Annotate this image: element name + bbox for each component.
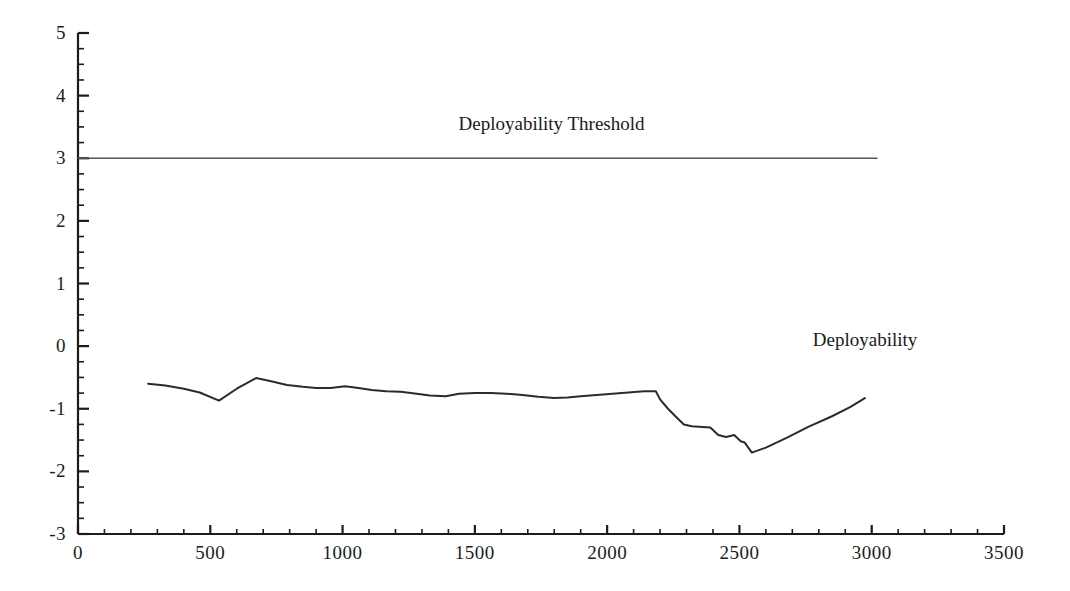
y-axis-tick-label: 1 <box>56 273 66 295</box>
chart-plot-area <box>0 0 1070 591</box>
y-axis-tick-label: 5 <box>56 22 66 44</box>
series-line-1 <box>148 378 865 453</box>
y-axis-tick-label: 0 <box>56 335 66 357</box>
x-axis-tick-label: 1000 <box>323 542 363 564</box>
x-axis-major-ticks <box>78 525 1004 534</box>
y-axis-tick-label: 2 <box>56 210 66 232</box>
data-series-group <box>78 158 877 452</box>
y-axis-major-ticks <box>78 33 89 534</box>
x-axis-tick-label: 2000 <box>587 542 627 564</box>
y-axis-tick-label: 3 <box>56 147 66 169</box>
x-axis-tick-label: 2500 <box>719 542 759 564</box>
x-axis-tick-label: 0 <box>73 542 83 564</box>
axis-lines <box>78 33 1004 534</box>
chart-container: -3-2-1012345 050010001500200025003000350… <box>0 0 1070 591</box>
x-axis-tick-label: 3000 <box>852 542 892 564</box>
y-axis-tick-label: -1 <box>49 398 66 420</box>
series-annotation-label: Deployability <box>813 329 917 351</box>
y-axis-tick-label: 4 <box>56 85 66 107</box>
x-axis-tick-label: 3500 <box>984 542 1024 564</box>
series-annotation-label: Deployability Threshold <box>459 113 645 135</box>
x-axis-tick-label: 1500 <box>455 542 495 564</box>
x-axis-tick-label: 500 <box>195 542 225 564</box>
y-axis-tick-label: -3 <box>49 523 66 545</box>
y-axis-tick-label: -2 <box>49 460 66 482</box>
